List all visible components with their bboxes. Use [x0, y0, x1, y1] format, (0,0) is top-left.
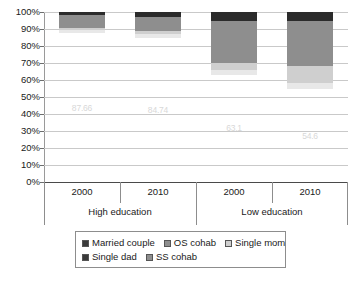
legend-item: Married couple — [82, 238, 155, 248]
x-axis-group-band: High educationLow education — [44, 203, 348, 225]
legend-swatch-icon — [82, 254, 89, 261]
bar-value-label: 84.74 — [135, 105, 181, 115]
y-axis-tick-label: 10% — [2, 160, 40, 169]
bar-value-label: 54.6 — [287, 131, 333, 141]
legend-swatch-icon — [225, 240, 232, 247]
y-axis-tick-label: 40% — [2, 109, 40, 118]
y-axis-tick-mark — [40, 97, 44, 98]
y-axis-tick-mark — [40, 46, 44, 47]
y-axis-tick-label: 0% — [2, 177, 40, 186]
y-axis-tick-label: 30% — [2, 126, 40, 135]
x-axis-year-label: 2010 — [272, 186, 348, 197]
bar-value-label: 63.1 — [211, 123, 257, 133]
bar-segment-single-mom — [135, 31, 181, 34]
y-axis-tick-mark — [40, 114, 44, 115]
bar-segment-ss-cohab — [287, 12, 333, 21]
x-axis-year-label: 2010 — [120, 186, 196, 197]
y-axis-tick-label: 50% — [2, 92, 40, 101]
y-axis-tick-mark — [40, 80, 44, 81]
chart-legend: Married coupleOS cohabSingle mom Single … — [75, 231, 286, 268]
x-axis-separator — [120, 182, 121, 203]
y-axis-tick-mark — [40, 63, 44, 64]
x-axis-year-label: 2000 — [196, 186, 272, 197]
legend-swatch-icon — [146, 254, 153, 261]
y-axis-tick-mark — [40, 182, 44, 183]
y-axis-tick-label: 70% — [2, 58, 40, 67]
legend-item: Single dad — [82, 252, 137, 262]
bar-segment-single-dad — [59, 30, 105, 33]
y-axis-tick-mark — [40, 165, 44, 166]
bar: 63.1 — [211, 12, 257, 182]
legend-swatch-icon — [82, 240, 89, 247]
bar: 87.66 — [59, 12, 105, 182]
y-axis-tick-label: 90% — [2, 24, 40, 33]
legend-label: Single dad — [92, 252, 137, 262]
bar-segment-os-cohab — [287, 21, 333, 67]
legend-item: Single mom — [225, 238, 285, 248]
y-axis-tick-label: 100% — [2, 7, 40, 16]
bar: 84.74 — [135, 12, 181, 182]
legend-row-2: Single dadSS cohab — [82, 250, 279, 264]
x-axis-group-label: High education — [44, 206, 196, 217]
bar-segment-single-dad — [211, 70, 257, 75]
x-axis-group-label: Low education — [196, 206, 348, 217]
bar-value-label: 87.66 — [59, 103, 105, 113]
legend-label: SS cohab — [156, 252, 197, 262]
bar-segment-single-mom — [211, 63, 257, 70]
stacked-bar-chart: 100%90%80%70%60%50%40%30%20%10%0% 87.668… — [0, 0, 360, 281]
bar-segment-single-mom — [59, 28, 105, 30]
bar-segment-single-dad — [287, 83, 333, 89]
legend-label: OS cohab — [174, 238, 216, 248]
y-axis-tick-mark — [40, 12, 44, 13]
y-axis: 100%90%80%70%60%50%40%30%20%10%0% — [0, 0, 40, 182]
plot-area: 87.6684.7463.154.6 — [44, 12, 348, 182]
bar-segment-os-cohab — [135, 17, 181, 31]
bar-segment-single-dad — [135, 34, 181, 38]
y-axis-tick-label: 80% — [2, 41, 40, 50]
legend-row-1: Married coupleOS cohabSingle mom — [82, 236, 279, 250]
y-axis-tick-mark — [40, 131, 44, 132]
legend-item: SS cohab — [146, 252, 197, 262]
legend-label: Married couple — [92, 238, 155, 248]
bar-segment-single-mom — [287, 66, 333, 83]
y-axis-tick-mark — [40, 29, 44, 30]
y-axis-tick-mark — [40, 148, 44, 149]
axis-frame-left — [44, 182, 45, 225]
bar-segment-os-cohab — [211, 21, 257, 63]
bar-segment-os-cohab — [59, 15, 105, 27]
legend-item: OS cohab — [164, 238, 216, 248]
y-axis-tick-label: 60% — [2, 75, 40, 84]
bar-segment-ss-cohab — [211, 12, 257, 21]
bar-segment-ss-cohab — [135, 12, 181, 17]
bar-segment-ss-cohab — [59, 12, 105, 15]
bar: 54.6 — [287, 12, 333, 182]
legend-label: Single mom — [235, 238, 285, 248]
x-axis-separator — [272, 182, 273, 203]
legend-swatch-icon — [164, 240, 171, 247]
y-axis-tick-label: 20% — [2, 143, 40, 152]
x-axis-group-separator — [196, 182, 197, 225]
x-axis-year-label: 2000 — [44, 186, 120, 197]
axis-frame-right — [347, 182, 348, 225]
